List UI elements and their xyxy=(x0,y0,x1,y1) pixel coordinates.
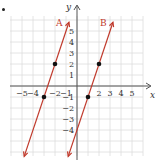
coordinate-plane: −5−4−2−1234554321−1−2−3−4 x y A B xyxy=(0,0,158,164)
y-axis-label: y xyxy=(65,2,72,12)
data-point xyxy=(97,62,102,67)
y-tick-label: −1 xyxy=(62,93,74,102)
y-tick-label: 3 xyxy=(69,49,74,58)
y-tick-label: −2 xyxy=(62,104,74,113)
x-axis-label: x xyxy=(150,90,155,100)
x-tick-label: 5 xyxy=(129,89,134,98)
data-point xyxy=(42,95,47,100)
line-a-label: A xyxy=(55,18,63,28)
y-tick-label: 2 xyxy=(69,60,74,69)
y-tick-label: 5 xyxy=(69,27,74,36)
x-tick-label: 4 xyxy=(118,89,123,98)
y-tick-label: 4 xyxy=(69,38,74,47)
y-tick-label: −4 xyxy=(62,126,74,135)
data-point xyxy=(86,95,91,100)
data-point xyxy=(53,62,58,67)
x-tick-label: 3 xyxy=(107,89,112,98)
x-tick-label: −4 xyxy=(27,89,39,98)
line-b-label: B xyxy=(100,18,107,28)
x-tick-label: 2 xyxy=(96,89,101,98)
y-tick-label: −3 xyxy=(62,115,74,124)
y-tick-label: 1 xyxy=(69,71,74,80)
